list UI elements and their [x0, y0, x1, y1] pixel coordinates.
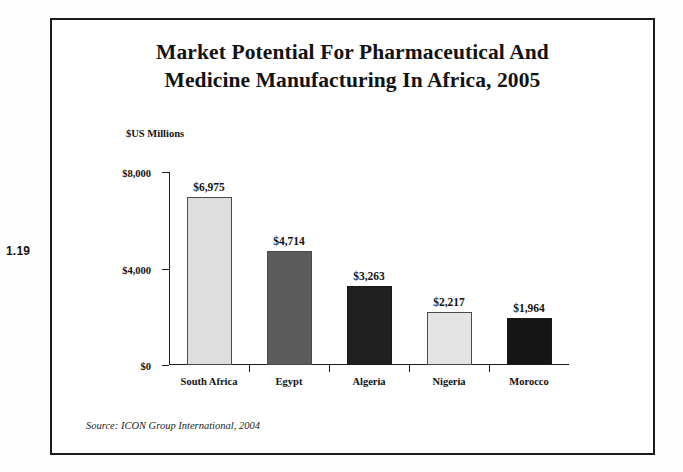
- figure-frame: Market Potential For Pharmaceutical And …: [50, 18, 655, 455]
- bar[interactable]: [507, 318, 552, 365]
- y-axis-tick-label: $0: [141, 361, 152, 372]
- x-axis-category-label: Morocco: [509, 376, 548, 387]
- bar[interactable]: [427, 312, 472, 365]
- x-axis-tick: [409, 365, 410, 372]
- bar-group: $2,217Nigeria: [427, 312, 472, 365]
- y-axis-unit-label: $US Millions: [126, 128, 184, 139]
- bar-group: $6,975South Africa: [187, 197, 232, 365]
- chart-title-line-2: Medicine Manufacturing In Africa, 2005: [52, 66, 653, 94]
- bar-value-label: $6,975: [193, 181, 225, 193]
- y-axis-tick: $4,000: [162, 269, 169, 270]
- x-axis-category-label: Nigeria: [432, 376, 465, 387]
- page-number-marker: 1.19: [6, 244, 30, 258]
- y-axis-tick: $0: [162, 365, 169, 366]
- x-axis-tick: [249, 365, 250, 372]
- x-axis-tick: [489, 365, 490, 372]
- bar-group: $3,263Algeria: [347, 286, 392, 365]
- x-axis-tick: [329, 365, 330, 372]
- bar-group: $4,714Egypt: [267, 251, 312, 365]
- bar-series: $6,975South Africa$4,714Egypt$3,263Alger…: [169, 172, 569, 365]
- y-axis-tick-label: $8,000: [122, 168, 151, 179]
- chart-title-line-1: Market Potential For Pharmaceutical And: [52, 38, 653, 66]
- chart-title: Market Potential For Pharmaceutical And …: [52, 38, 653, 94]
- bar[interactable]: [187, 197, 232, 365]
- x-axis-category-label: Algeria: [352, 376, 385, 387]
- bar-value-label: $1,964: [513, 302, 545, 314]
- x-axis-category-label: South Africa: [181, 376, 238, 387]
- bar-value-label: $2,217: [433, 296, 465, 308]
- bar-value-label: $3,263: [353, 270, 385, 282]
- plot-area: $0$4,000$8,000 $6,975South Africa$4,714E…: [169, 172, 569, 365]
- bar-value-label: $4,714: [273, 235, 305, 247]
- bar-group: $1,964Morocco: [507, 318, 552, 365]
- y-axis-tick-label: $4,000: [122, 264, 151, 275]
- document-page: 1.19 Market Potential For Pharmaceutical…: [0, 0, 683, 472]
- bar[interactable]: [347, 286, 392, 365]
- x-axis-category-label: Egypt: [276, 376, 303, 387]
- bar[interactable]: [267, 251, 312, 365]
- y-axis-tick: $8,000: [162, 172, 169, 173]
- source-note: Source: ICON Group International, 2004: [86, 420, 260, 431]
